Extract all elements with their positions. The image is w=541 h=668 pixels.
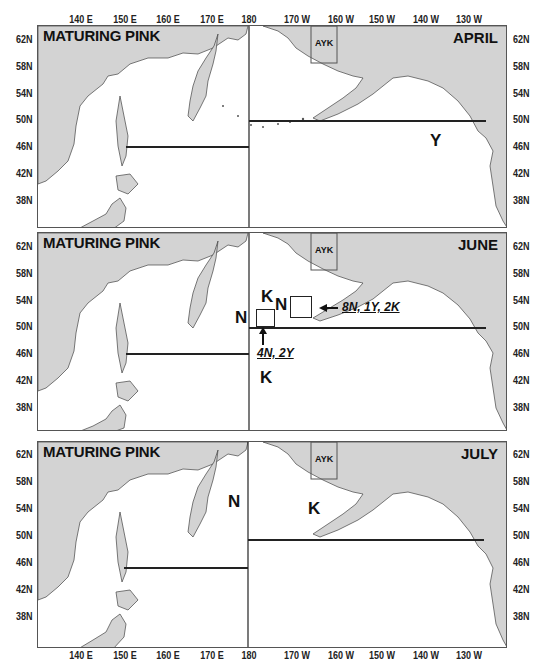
month-label: APRIL <box>453 29 498 46</box>
y-tick: 62N <box>16 241 33 252</box>
x-tick: 150 E <box>113 14 137 25</box>
y-tick: 46N <box>16 348 33 359</box>
panel-title: MATURING PINK <box>43 234 160 251</box>
y-tick: 38N <box>16 195 33 206</box>
y-tick: 42N <box>513 375 530 386</box>
catch-note-east: 8N, 1Y, 2K <box>342 300 400 314</box>
y-tick: 58N <box>16 268 33 279</box>
x-tick: 170 E <box>200 14 224 25</box>
x-tick: 180 <box>241 650 256 661</box>
x-tick: 170 W <box>284 650 310 661</box>
y-tick: 42N <box>513 584 530 595</box>
map-frame: MATURING PINK JUNE AYK N K N K 8N, 1Y, 2… <box>37 232 507 431</box>
x-tick: 140 E <box>69 650 93 661</box>
y-tick: 38N <box>513 402 530 413</box>
y-tick: 50N <box>513 321 530 332</box>
region-label-ayk: AYK <box>315 454 333 464</box>
stock-marker-n: N <box>275 295 287 315</box>
x-tick: 150 W <box>369 14 395 25</box>
y-tick: 62N <box>513 449 530 460</box>
coastline-map <box>38 233 507 431</box>
y-tick: 38N <box>513 195 530 206</box>
y-tick: 54N <box>16 88 33 99</box>
y-tick: 54N <box>513 295 530 306</box>
x-tick: 130 W <box>456 14 482 25</box>
x-tick: 150 W <box>369 650 395 661</box>
y-tick: 58N <box>16 476 33 487</box>
y-tick: 42N <box>16 375 33 386</box>
y-tick: 54N <box>16 295 33 306</box>
y-tick: 62N <box>513 34 530 45</box>
y-tick: 62N <box>513 241 530 252</box>
x-tick: 160 W <box>328 14 354 25</box>
stock-marker-y: Y <box>430 131 441 151</box>
region-label-ayk: AYK <box>315 245 333 255</box>
y-tick: 46N <box>513 141 530 152</box>
y-tick: 46N <box>513 557 530 568</box>
y-tick: 42N <box>16 584 33 595</box>
y-tick: 58N <box>513 61 530 72</box>
y-tick: 42N <box>513 168 530 179</box>
y-tick: 46N <box>16 141 33 152</box>
x-tick: 140 W <box>413 650 439 661</box>
y-tick: 38N <box>16 402 33 413</box>
y-tick: 58N <box>16 61 33 72</box>
month-label: JULY <box>461 445 498 462</box>
y-tick: 50N <box>16 321 33 332</box>
stock-marker-k: K <box>261 287 273 307</box>
y-tick: 62N <box>16 34 33 45</box>
y-tick: 50N <box>16 530 33 541</box>
x-tick: 140 W <box>413 14 439 25</box>
map-frame: MATURING PINK APRIL AYK Y <box>37 25 507 228</box>
x-tick: 140 E <box>69 14 93 25</box>
catch-note-west: 4N, 2Y <box>257 346 294 360</box>
y-tick: 58N <box>513 476 530 487</box>
x-tick: 160 E <box>156 650 180 661</box>
coastline-map <box>38 26 507 228</box>
panel-title: MATURING PINK <box>43 443 160 460</box>
x-tick: 180 <box>241 14 256 25</box>
panel-title: MATURING PINK <box>43 27 160 44</box>
region-label-ayk: AYK <box>315 38 333 48</box>
coastline-map <box>38 442 507 648</box>
y-tick: 58N <box>513 268 530 279</box>
x-tick: 150 E <box>113 650 137 661</box>
stock-marker-n: N <box>228 492 240 512</box>
x-tick: 170 W <box>284 14 310 25</box>
y-tick: 42N <box>16 168 33 179</box>
y-tick: 54N <box>513 88 530 99</box>
y-tick: 50N <box>513 114 530 125</box>
x-tick: 160 W <box>328 650 354 661</box>
month-label: JUNE <box>458 236 498 253</box>
y-tick: 54N <box>513 503 530 514</box>
y-tick: 46N <box>16 557 33 568</box>
x-tick: 160 E <box>156 14 180 25</box>
y-tick: 46N <box>513 348 530 359</box>
stock-marker-k: K <box>308 499 320 519</box>
y-tick: 54N <box>16 503 33 514</box>
y-tick: 50N <box>513 530 530 541</box>
y-tick: 62N <box>16 449 33 460</box>
x-tick: 170 E <box>200 650 224 661</box>
stock-marker-k: K <box>260 368 272 388</box>
y-tick: 50N <box>16 114 33 125</box>
map-frame: MATURING PINK JULY AYK N K <box>37 441 507 648</box>
stock-marker-n: N <box>235 308 247 328</box>
y-tick: 38N <box>16 611 33 622</box>
x-tick: 130 W <box>456 650 482 661</box>
sampling-box-1 <box>256 309 275 327</box>
sampling-box-2 <box>290 296 312 318</box>
y-tick: 38N <box>513 611 530 622</box>
